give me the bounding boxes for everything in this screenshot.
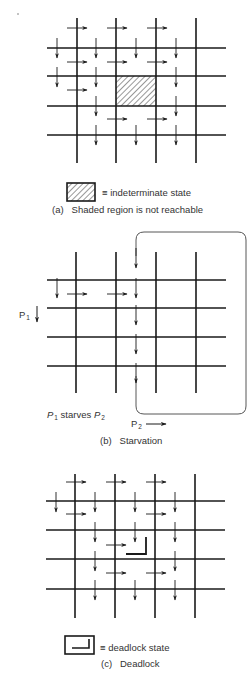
- p1-letter: P: [19, 309, 25, 320]
- starves-word: starves: [61, 409, 92, 420]
- p1-label: P1: [19, 310, 30, 322]
- panel-a-reachability-grid: [47, 18, 226, 163]
- caption-b-text: Starvation: [120, 435, 163, 446]
- caption-b: (b) Starvation: [100, 436, 162, 446]
- starves-p2-sub: 2: [101, 414, 105, 421]
- legend-deadlock-label: ≡ deadlock state: [100, 643, 169, 653]
- starvation-loop-path: [136, 232, 246, 414]
- legend-hatched-box-icon: [67, 183, 95, 201]
- starves-p1-letter: P: [47, 409, 53, 420]
- p2-label: P2: [131, 419, 142, 431]
- p1-starves-p2-label: P1 starves P2: [47, 410, 105, 422]
- diagram-canvas: [0, 0, 248, 681]
- caption-b-tag: (b): [100, 435, 112, 446]
- p2-subscript: 2: [138, 423, 142, 430]
- caption-a: (a) Shaded region is not reachable: [52, 205, 203, 215]
- starves-p1-sub: 1: [54, 414, 58, 421]
- p2-letter: P: [131, 418, 137, 429]
- caption-c: (c) Deadlock: [101, 659, 160, 669]
- panel-b-starvation-grid: [47, 232, 246, 414]
- caption-a-text: Shaded region is not reachable: [72, 204, 204, 215]
- legend-deadlock-box-icon: [65, 636, 94, 654]
- legend-indeterminate-label: ≡ indeterminate state: [102, 188, 191, 198]
- scan-speck: [17, 13, 19, 15]
- caption-a-tag: (a): [52, 204, 64, 215]
- panel-c-deadlock-grid: [46, 474, 225, 618]
- starves-p2-letter: P: [94, 409, 100, 420]
- p1-subscript: 1: [26, 314, 30, 321]
- caption-c-tag: (c): [101, 658, 112, 669]
- deadlock-state-marker: [126, 537, 146, 554]
- indeterminate-region: [116, 76, 156, 106]
- caption-c-text: Deadlock: [120, 658, 160, 669]
